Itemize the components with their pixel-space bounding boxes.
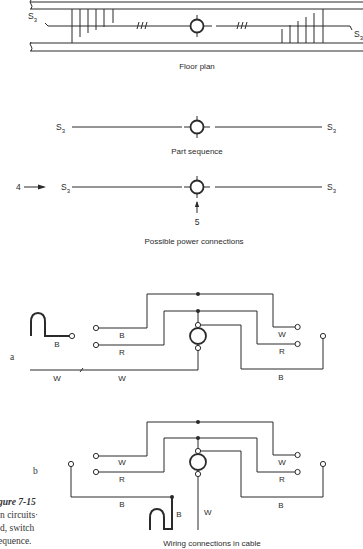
arrow-label-4: 4 — [16, 182, 21, 192]
terminal-icon — [295, 452, 300, 457]
wire-label: W — [118, 458, 126, 467]
wire-label: B — [176, 510, 181, 519]
possible-power-connections — [24, 176, 322, 213]
terminal-icon — [195, 471, 200, 476]
wire-label: B — [119, 500, 124, 509]
break-mark-icon — [30, 0, 32, 9]
light-fixture-icon — [190, 454, 206, 470]
wire-label: R — [119, 475, 125, 484]
light-fixture-icon — [191, 121, 204, 134]
terminal-icon — [195, 322, 200, 327]
terminal-icon — [68, 461, 73, 466]
part-sequence — [72, 116, 322, 138]
wiring-diagram-figure: S3 S3 Floor plan S3 S3 Part sequence 4 S… — [0, 0, 363, 549]
figure-caption-line: equence. — [0, 536, 32, 546]
terminal-icon — [295, 341, 300, 346]
floor-plan-caption: Floor plan — [179, 62, 215, 71]
wire-label: B — [278, 373, 283, 382]
light-fixture-icon — [190, 328, 206, 344]
wire-label: R — [279, 475, 285, 484]
circuit-run-left — [45, 23, 182, 26]
wire-label: B — [119, 331, 124, 340]
light-fixture-icon — [191, 181, 204, 194]
wire-label: R — [279, 347, 285, 356]
terminal-icon — [320, 333, 325, 338]
switch-label-left: S3 — [61, 182, 71, 194]
switch-label-left: S3 — [28, 11, 38, 23]
switch-label-right: S3 — [327, 122, 337, 134]
junction-dot — [196, 292, 200, 296]
circuit-run-right — [216, 26, 352, 30]
junction-dot — [196, 420, 200, 424]
terminal-icon — [93, 469, 98, 474]
wiring-diagram-b — [68, 420, 325, 530]
switch-label-right: S3 — [354, 29, 363, 41]
wire-label: W — [204, 508, 212, 517]
source-loop-icon — [31, 313, 69, 336]
terminal-icon — [93, 453, 98, 458]
part-sequence-caption: Part sequence — [171, 147, 223, 156]
figure-caption-line: d, switch — [0, 523, 35, 533]
switch-label-right: S3 — [327, 182, 337, 194]
terminal-icon — [295, 324, 300, 329]
light-fixture-icon — [191, 20, 204, 33]
wire-label: B — [278, 501, 283, 510]
terminal-icon — [93, 325, 98, 330]
power-connections-caption: Possible power connections — [144, 237, 243, 246]
figure-caption-line: n circuits· — [0, 510, 38, 520]
terminal-icon — [69, 333, 74, 338]
wire-label: W — [118, 374, 126, 383]
switch-label-left: S3 — [56, 122, 66, 134]
source-loop-icon — [150, 497, 172, 530]
terminal-icon — [195, 448, 200, 453]
figure-number: gure 7-15 — [0, 497, 36, 507]
arrow-label-5: 5 — [195, 217, 200, 227]
terminal-icon — [320, 461, 325, 466]
terminal-icon — [295, 469, 300, 474]
wire-label: W — [53, 374, 61, 383]
diagram-label-a: a — [10, 352, 15, 362]
terminal-icon — [93, 342, 98, 347]
floor-plan — [30, 0, 363, 51]
wire-label: B — [54, 340, 59, 349]
diagram-label-b: b — [33, 466, 38, 476]
wire-label: W — [278, 458, 286, 467]
wire-label: W — [278, 330, 286, 339]
wire-label: R — [119, 348, 125, 357]
wiring-caption: Wiring connections in cable — [163, 539, 261, 548]
terminal-icon — [195, 345, 200, 350]
